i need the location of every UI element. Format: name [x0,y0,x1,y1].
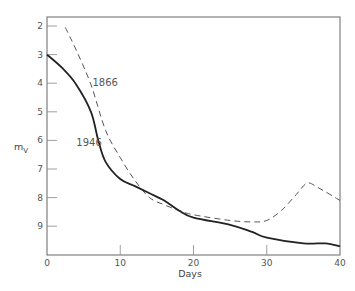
series-label-1866: 1866 [92,77,117,88]
series-label-1946: 1946 [76,137,101,148]
y-tick-label: 3 [37,50,43,60]
y-axis-title-sub: V [23,147,28,155]
y-tick-label: 4 [37,78,43,88]
y-tick-label: 9 [37,221,43,231]
y-tick-label: 7 [37,164,43,174]
x-axis-title: Days [178,268,202,279]
y-tick-label: 5 [37,107,43,117]
x-tick-label: 10 [115,258,127,268]
x-axis-ticks: 010203040 [44,245,346,268]
x-tick-label: 40 [334,258,346,268]
x-tick-label: 0 [44,258,50,268]
series-labels: 18661946 [76,77,118,148]
y-tick-label: 8 [37,193,43,203]
light-curve-chart: 010203040 23456789 18661946 Days mV [0,0,355,291]
plot-frame [47,17,340,255]
series-line-1866 [65,27,340,222]
x-tick-label: 30 [261,258,273,268]
y-axis-title-main: m [14,141,23,152]
plot-border [47,17,340,255]
y-tick-label: 2 [37,21,43,31]
x-tick-label: 20 [188,258,200,268]
y-axis-title: mV [14,141,28,155]
y-tick-label: 6 [37,135,43,145]
